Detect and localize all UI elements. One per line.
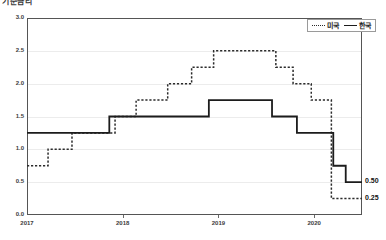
- interest-rate-step-chart: 기준금리 0.00.51.01.52.02.53.0 2017201820192…: [0, 0, 386, 240]
- gridline: [28, 51, 361, 52]
- x-axis-tick-2017: 2017: [20, 220, 33, 226]
- y-axis-tick-2.5: 2.5: [0, 47, 24, 53]
- y-axis-tick-1.0: 1.0: [0, 145, 24, 151]
- x-axis-tickmark: [314, 215, 315, 218]
- x-axis-tickmark: [218, 215, 219, 218]
- gridline: [28, 84, 361, 85]
- y-axis-tick-2.0: 2.0: [0, 80, 24, 86]
- gridline: [28, 117, 361, 118]
- x-axis-tick-2019: 2019: [212, 220, 225, 226]
- legend-label-korea: 한국: [359, 22, 371, 29]
- y-axis-tick-1.5: 1.5: [0, 113, 24, 119]
- y-axis-tick-0.5: 0.5: [0, 178, 24, 184]
- plot-area: [27, 18, 362, 215]
- legend-item-korea: 한국: [344, 22, 371, 29]
- end-label-us: 0.25: [365, 194, 379, 201]
- solid-line-icon: [344, 23, 357, 28]
- x-axis-tick-2020: 2020: [307, 220, 320, 226]
- gridline: [28, 149, 361, 150]
- chart-legend: 미국 한국: [307, 19, 376, 32]
- gridline: [28, 182, 361, 183]
- legend-item-us: 미국: [312, 22, 339, 29]
- end-label-korea: 0.50: [365, 177, 379, 184]
- chart-title-clipped: 기준금리: [0, 0, 386, 11]
- x-axis-tickmark: [123, 215, 124, 218]
- page-title: 기준금리: [2, 0, 32, 6]
- x-axis-tick-2018: 2018: [116, 220, 129, 226]
- y-axis-tick-0.0: 0.0: [0, 211, 24, 217]
- dotted-line-icon: [312, 23, 325, 28]
- y-axis-tick-3.0: 3.0: [0, 14, 24, 20]
- legend-label-us: 미국: [327, 22, 339, 29]
